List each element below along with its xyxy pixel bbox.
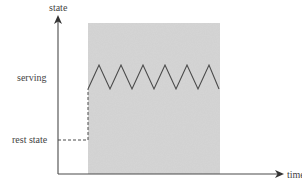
rest-state-level-label: rest state — [12, 134, 47, 146]
shaded-serving-region — [88, 23, 220, 174]
state-time-diagram — [0, 0, 302, 189]
x-axis-label: time — [287, 169, 302, 181]
serving-level-label: serving — [17, 72, 46, 84]
y-axis-label: state — [49, 2, 67, 14]
